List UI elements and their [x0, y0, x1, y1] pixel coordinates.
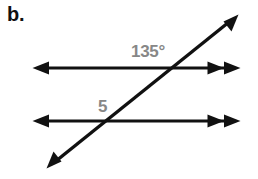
top-line-right-arrowhead-inner: [208, 62, 225, 75]
figure-diagram: [0, 0, 258, 179]
bottom-line-right-arrowhead-inner: [208, 115, 225, 128]
top-line-left-arrowhead: [33, 62, 50, 75]
bottom-parallel-line: [33, 115, 241, 128]
top-parallel-line: [33, 62, 241, 75]
bottom-line-right-arrowhead-outer: [224, 115, 241, 128]
transversal-bottom-arrowhead: [47, 152, 62, 169]
angle-label-135: 135°: [131, 43, 165, 60]
transversal-line: [47, 15, 239, 169]
transversal-top-arrowhead: [224, 15, 239, 32]
geometry-figure: b. 135° 5: [0, 0, 258, 179]
angle-label-5: 5: [98, 98, 107, 115]
top-line-right-arrowhead-outer: [224, 62, 241, 75]
bottom-line-left-arrowhead: [33, 115, 50, 128]
